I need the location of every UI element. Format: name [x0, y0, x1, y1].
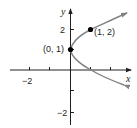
point-upper-marker [88, 27, 93, 32]
y-tick-label-2: 2 [60, 25, 65, 35]
point-vertex-marker [68, 47, 73, 52]
y-tick-label-neg2: −2 [57, 108, 67, 118]
y-axis-label: y [60, 6, 66, 17]
x-axis-label: x [125, 73, 131, 84]
parabola-graph: y x 2 −2 −2 (0, 1) (1, 2) [0, 0, 137, 128]
point-vertex-label: (0, 1) [43, 44, 64, 54]
point-upper-label: (1, 2) [94, 27, 115, 37]
parabola-curve [71, 13, 128, 85]
x-tick-label-neg2: −2 [22, 76, 32, 86]
